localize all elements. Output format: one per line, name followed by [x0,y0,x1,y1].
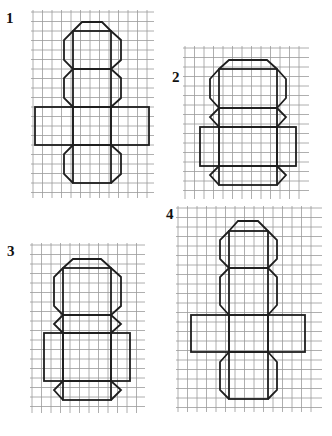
net-tab-edge [210,69,219,108]
net-tab-edge [277,166,286,185]
figure-4-label: 4 [166,207,174,222]
figure-3 [30,243,145,413]
figure-2 [183,46,309,199]
net-tab-edge [220,231,229,315]
net-tab-edge [210,166,219,185]
net-tab-edge [268,231,277,315]
figure-1-label: 1 [6,11,14,26]
net-outline [191,221,305,399]
figure-1 [31,10,154,198]
net-face [268,315,305,352]
grid-paper [176,206,322,412]
net-tab-edge [220,352,229,399]
net-tab-edge [54,268,63,315]
net-face [219,166,277,185]
figure-3-label: 3 [7,244,15,259]
net-face [219,127,277,166]
net-outline [200,60,296,185]
net-face [200,127,219,166]
net-tab-edge [73,22,111,31]
net-tab-edge [219,60,277,69]
net-tab-edge [111,268,121,315]
grid-paper [31,10,154,198]
net-face [219,69,277,108]
net-tab-edge [268,352,277,399]
net-tab-edge [277,69,286,108]
figure-2-label: 2 [172,70,180,85]
figure-4 [176,206,322,412]
